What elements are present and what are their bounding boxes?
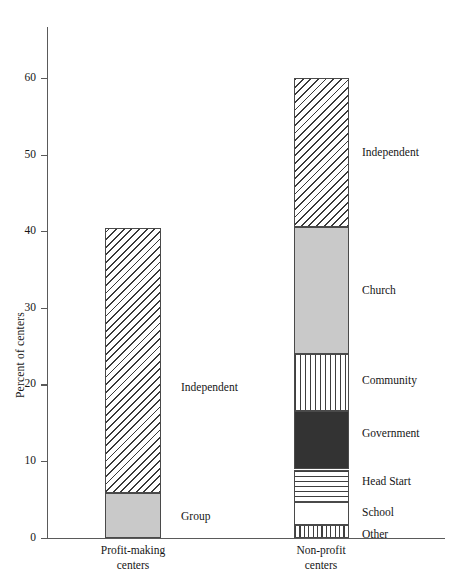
segment-label-independent-profit: Independent bbox=[181, 380, 238, 394]
y-tick-label-60: 60 bbox=[25, 70, 37, 85]
category-label-non-profit: Non-profit centers bbox=[266, 543, 376, 572]
segment-label-community-nonprofit: Community bbox=[362, 373, 417, 387]
y-axis-line bbox=[47, 27, 48, 539]
category-label-profit-making: Profit-making centers bbox=[78, 543, 188, 572]
y-tick-label-50: 50 bbox=[25, 147, 37, 162]
segment-school-nonprofit bbox=[294, 502, 349, 524]
category-label-nonprofit-line1: Non-profit bbox=[296, 544, 345, 556]
segment-head-start-nonprofit bbox=[294, 470, 349, 503]
segment-independent-profit bbox=[105, 228, 161, 494]
segment-group-profit bbox=[105, 493, 161, 537]
segment-community-nonprofit bbox=[294, 354, 349, 412]
category-label-nonprofit-line2: centers bbox=[305, 559, 338, 571]
segment-label-independent-nonprofit: Independent bbox=[362, 145, 419, 159]
segment-label-church-nonprofit: Church bbox=[362, 283, 396, 297]
y-tick-label-40: 40 bbox=[25, 223, 37, 238]
segment-label-head-start-nonprofit: Head Start bbox=[362, 474, 411, 488]
stacked-bar-chart: Percent of centers 0 10 20 30 40 50 60 I… bbox=[0, 0, 461, 575]
y-tick-label-10: 10 bbox=[25, 453, 37, 468]
category-label-profit-line1: Profit-making bbox=[101, 544, 166, 556]
y-tick-label-20: 20 bbox=[25, 376, 37, 391]
category-label-profit-line2: centers bbox=[117, 559, 150, 571]
segment-government-nonprofit bbox=[294, 411, 349, 469]
segment-church-nonprofit bbox=[294, 227, 349, 353]
bar-non-profit-centers bbox=[294, 78, 349, 538]
segment-label-group-profit: Group bbox=[181, 509, 210, 523]
y-axis-title: Percent of centers bbox=[0, 138, 12, 268]
segment-label-other-nonprofit: Other bbox=[362, 527, 388, 541]
segment-other-nonprofit bbox=[294, 525, 349, 538]
segment-label-government-nonprofit: Government bbox=[362, 426, 419, 440]
y-tick-label-30: 30 bbox=[25, 300, 37, 315]
segment-label-school-nonprofit: School bbox=[362, 505, 394, 519]
segment-independent-nonprofit bbox=[294, 78, 349, 227]
y-tick-label-0: 0 bbox=[30, 530, 36, 545]
bar-profit-making-centers bbox=[105, 228, 161, 538]
